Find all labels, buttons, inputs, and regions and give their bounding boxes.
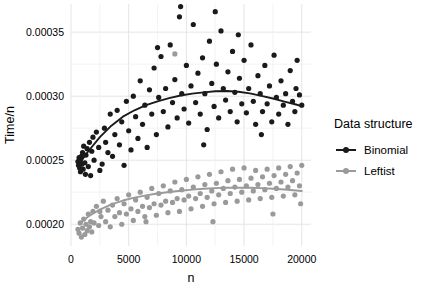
data-point xyxy=(135,136,140,141)
data-point xyxy=(198,191,203,196)
data-point xyxy=(292,109,297,114)
data-point xyxy=(202,91,207,96)
data-point xyxy=(198,112,203,117)
data-point xyxy=(258,91,263,96)
data-point xyxy=(145,145,150,150)
data-point xyxy=(188,83,193,88)
data-point xyxy=(232,90,237,95)
data-point xyxy=(119,222,124,227)
data-point xyxy=(200,55,205,60)
data-point xyxy=(88,173,93,178)
scatter-plot-figure: 05000100001500020000 0.000200.000250.000… xyxy=(0,0,439,300)
data-point xyxy=(223,97,228,102)
data-point xyxy=(213,9,218,14)
data-point xyxy=(209,188,214,193)
data-point xyxy=(283,172,288,177)
data-point xyxy=(290,178,295,183)
data-point xyxy=(283,91,288,96)
y-tick-label: 0.00035 xyxy=(26,26,64,38)
data-point xyxy=(96,145,101,150)
data-point xyxy=(209,81,214,86)
data-point xyxy=(186,193,191,198)
data-point xyxy=(260,109,265,114)
data-point xyxy=(225,69,230,74)
data-point xyxy=(81,167,86,172)
data-point xyxy=(295,170,300,175)
data-point xyxy=(151,65,156,70)
data-point xyxy=(110,154,115,159)
data-point xyxy=(140,122,145,127)
data-point xyxy=(80,225,85,230)
data-point xyxy=(94,129,99,134)
data-point xyxy=(128,147,133,152)
data-point xyxy=(138,78,143,83)
data-point xyxy=(108,224,113,229)
data-point xyxy=(142,214,147,219)
data-point xyxy=(265,101,270,106)
data-point xyxy=(265,167,270,172)
data-point xyxy=(147,205,152,210)
data-point xyxy=(221,86,226,91)
data-point xyxy=(178,4,183,9)
data-point xyxy=(236,32,241,37)
data-point xyxy=(259,132,264,137)
data-point xyxy=(258,196,263,201)
data-point xyxy=(201,142,206,147)
data-point xyxy=(177,14,182,19)
y-tick-label: 0.00025 xyxy=(26,154,64,166)
data-point xyxy=(97,168,102,173)
data-point xyxy=(156,191,161,196)
data-point xyxy=(100,161,105,166)
data-point xyxy=(179,187,184,192)
x-axis-title: n xyxy=(188,271,195,285)
data-point xyxy=(297,183,302,188)
data-point xyxy=(230,49,235,54)
data-point xyxy=(83,152,88,157)
data-point xyxy=(112,214,117,219)
data-point xyxy=(205,195,210,200)
data-point xyxy=(299,103,304,108)
data-point xyxy=(103,219,108,224)
data-point xyxy=(241,58,246,63)
data-point xyxy=(278,78,283,83)
data-point xyxy=(163,86,168,91)
data-point xyxy=(154,132,159,137)
data-point xyxy=(237,177,242,182)
data-point xyxy=(91,220,96,225)
legend-key-point xyxy=(343,168,349,174)
data-point xyxy=(156,95,161,100)
data-point xyxy=(288,68,293,73)
data-point xyxy=(158,202,163,207)
data-point xyxy=(188,206,193,211)
data-point xyxy=(172,51,177,56)
legend-title: Data structure xyxy=(334,117,413,131)
x-tick-label: 10000 xyxy=(172,253,201,265)
data-point xyxy=(235,119,240,124)
data-point xyxy=(271,53,276,58)
data-point xyxy=(121,163,126,168)
y-tick-label: 0.00020 xyxy=(26,218,64,230)
data-point xyxy=(97,209,102,214)
data-point xyxy=(211,104,216,109)
data-point xyxy=(228,191,233,196)
data-point xyxy=(175,115,180,120)
data-point xyxy=(214,181,219,186)
data-point xyxy=(163,199,168,204)
data-point xyxy=(230,167,235,172)
data-point xyxy=(288,164,293,169)
data-point xyxy=(96,223,101,228)
data-point xyxy=(121,201,126,206)
data-point xyxy=(251,188,256,193)
data-point xyxy=(86,211,91,216)
data-point xyxy=(216,115,221,120)
data-point xyxy=(255,73,260,78)
data-point xyxy=(285,185,290,190)
x-tick-label: 20000 xyxy=(287,253,316,265)
data-point xyxy=(239,101,244,106)
data-point xyxy=(281,103,286,108)
data-point xyxy=(221,186,226,191)
data-point xyxy=(193,196,198,201)
data-point xyxy=(149,112,154,117)
data-point xyxy=(147,87,152,92)
data-point xyxy=(195,71,200,76)
